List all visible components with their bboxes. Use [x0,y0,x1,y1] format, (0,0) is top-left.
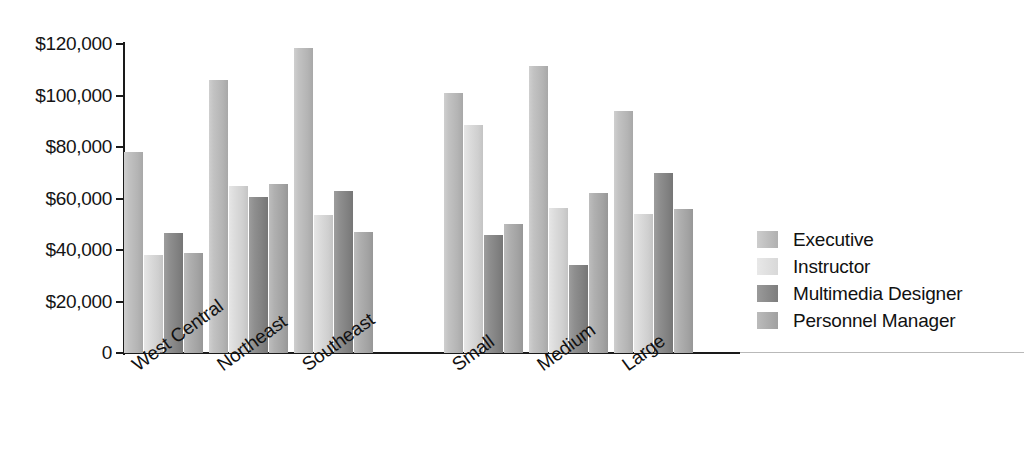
y-axis-tick [116,352,124,354]
x-axis-baseline-extension [740,352,1024,353]
bar-group [529,44,609,353]
y-axis-tick-label: $40,000 [4,239,112,261]
y-axis-tick [116,146,124,148]
bar-chart: $120,000$100,000$80,000$60,000$40,000$20… [0,0,1024,474]
y-axis-tick [116,249,124,251]
legend-label: Executive [793,229,874,251]
legend-swatch-icon [757,312,778,329]
bar [124,152,143,353]
y-axis-tick [116,301,124,303]
legend-label: Personnel Manager [793,310,955,332]
bar [294,48,313,353]
legend-swatch-icon [757,231,778,248]
y-axis-tick-label: $100,000 [4,85,112,107]
chart-legend: ExecutiveInstructorMultimedia DesignerPe… [757,226,962,334]
legend-swatch-icon [757,285,778,302]
bar [504,224,523,353]
y-axis-tick-label: $60,000 [4,188,112,210]
legend-item: Multimedia Designer [757,280,962,307]
bar [654,173,673,353]
y-axis-tick-label: 0 [4,342,112,364]
bar [634,214,653,353]
bar [614,111,633,353]
legend-item: Instructor [757,253,962,280]
bar [229,186,248,353]
legend-swatch-icon [757,258,778,275]
bar [444,93,463,353]
y-axis-tick [116,95,124,97]
bar-group [124,44,204,353]
bar-group [294,44,374,353]
bar [529,66,548,353]
legend-item: Executive [757,226,962,253]
legend-label: Instructor [793,256,870,278]
legend-item: Personnel Manager [757,307,962,334]
y-axis-tick-label: $20,000 [4,291,112,313]
y-axis-tick-label: $80,000 [4,136,112,158]
bar [314,215,333,353]
y-axis-tick [116,198,124,200]
bar [464,125,483,353]
bar [549,208,568,353]
legend-label: Multimedia Designer [793,283,962,305]
bar-group [444,44,524,353]
bar-group [614,44,694,353]
y-axis-tick [116,43,124,45]
bar [674,209,693,353]
y-axis-tick-label: $120,000 [4,33,112,55]
